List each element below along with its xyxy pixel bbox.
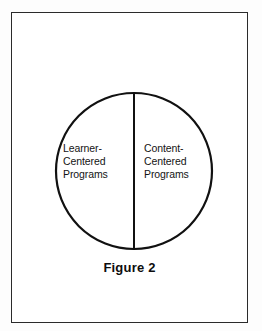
- figure-frame-border: [11, 12, 248, 323]
- pie-slice-label-learner-centered: Learner- Centered Programs: [63, 142, 129, 182]
- figure-caption: Figure 2: [11, 260, 248, 275]
- pie-slice-label-content-centered: Content- Centered Programs: [144, 142, 210, 182]
- figure-page: Learner- Centered Programs Content- Cent…: [0, 0, 262, 331]
